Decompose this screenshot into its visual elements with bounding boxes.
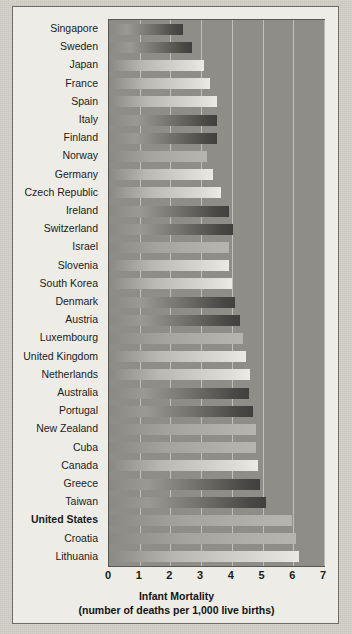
gridline-7: [324, 20, 325, 566]
bar-germany: [109, 169, 213, 180]
x-tick-label-6: 6: [289, 569, 295, 581]
bar-cuba: [109, 442, 256, 453]
bar-row: [109, 38, 324, 56]
bar-south-korea: [109, 278, 232, 289]
bar-austria: [109, 315, 240, 326]
bar-row: [109, 93, 324, 111]
category-label-austria: Austria: [65, 310, 98, 328]
bar-netherlands: [109, 369, 250, 380]
bar-row: [109, 329, 324, 347]
bar-row: [109, 402, 324, 420]
category-label-denmark: Denmark: [55, 292, 98, 310]
bar-row: [109, 275, 324, 293]
category-label-south-korea: South Korea: [40, 274, 98, 292]
bar-greece: [109, 479, 260, 490]
bar-row: [109, 129, 324, 147]
bar-taiwan: [109, 497, 266, 508]
category-label-new-zealand: New Zealand: [36, 419, 98, 437]
category-label-cuba: Cuba: [73, 438, 98, 456]
category-label-ireland: Ireland: [66, 201, 98, 219]
bar-row: [109, 366, 324, 384]
bar-row: [109, 439, 324, 457]
bar-croatia: [109, 533, 296, 544]
bar-row: [109, 530, 324, 548]
x-tick-label-0: 0: [105, 569, 111, 581]
bar-singapore: [109, 24, 183, 35]
category-label-czech-republic: Czech Republic: [24, 183, 98, 201]
bar-row: [109, 202, 324, 220]
plot-area: [108, 19, 325, 567]
axis-title-main: Infant Mortality: [13, 589, 340, 603]
bar-row: [109, 475, 324, 493]
bar-row: [109, 348, 324, 366]
bar-row: [109, 166, 324, 184]
category-label-japan: Japan: [69, 55, 98, 73]
page-background: SingaporeSwedenJapanFranceSpainItalyFinl…: [0, 0, 352, 634]
category-label-luxembourg: Luxembourg: [40, 328, 98, 346]
category-label-slovenia: Slovenia: [58, 256, 98, 274]
bar-row: [109, 384, 324, 402]
value-axis-ticks: 01234567: [108, 569, 323, 585]
bar-denmark: [109, 297, 235, 308]
bar-row: [109, 493, 324, 511]
category-label-australia: Australia: [57, 383, 98, 401]
category-label-spain: Spain: [71, 92, 98, 110]
x-tick-label-7: 7: [320, 569, 326, 581]
bar-new-zealand: [109, 424, 256, 435]
x-tick-label-3: 3: [197, 569, 203, 581]
bar-row: [109, 548, 324, 566]
bar-switzerland: [109, 224, 233, 235]
bar-spain: [109, 96, 217, 107]
bar-portugal: [109, 406, 253, 417]
category-label-united-kingdom: United Kingdom: [23, 347, 98, 365]
category-label-lithuania: Lithuania: [55, 547, 98, 565]
category-label-switzerland: Switzerland: [44, 219, 98, 237]
bar-row: [109, 420, 324, 438]
bar-row: [109, 75, 324, 93]
category-label-canada: Canada: [61, 456, 98, 474]
bar-ireland: [109, 206, 229, 217]
bar-row: [109, 257, 324, 275]
category-label-singapore: Singapore: [50, 19, 98, 37]
category-label-italy: Italy: [79, 110, 98, 128]
category-label-portugal: Portugal: [59, 401, 98, 419]
category-axis-labels: SingaporeSwedenJapanFranceSpainItalyFinl…: [13, 19, 104, 565]
category-label-croatia: Croatia: [64, 529, 98, 547]
category-label-finland: Finland: [64, 128, 98, 146]
category-label-sweden: Sweden: [60, 37, 98, 55]
x-tick-label-4: 4: [228, 569, 234, 581]
category-label-greece: Greece: [64, 474, 98, 492]
bar-row: [109, 20, 324, 38]
x-tick-label-5: 5: [259, 569, 265, 581]
category-label-united-states: United States: [31, 510, 98, 528]
bar-series: [109, 20, 324, 566]
bar-row: [109, 56, 324, 74]
bar-united-states: [109, 515, 292, 526]
bar-row: [109, 184, 324, 202]
bar-italy: [109, 115, 217, 126]
bar-united-kingdom: [109, 351, 246, 362]
x-tick-label-2: 2: [166, 569, 172, 581]
category-label-israel: Israel: [72, 237, 98, 255]
figure-panel: SingaporeSwedenJapanFranceSpainItalyFinl…: [12, 6, 339, 624]
bar-row: [109, 147, 324, 165]
category-label-germany: Germany: [55, 165, 98, 183]
bar-australia: [109, 388, 249, 399]
bar-sweden: [109, 42, 192, 53]
bar-japan: [109, 60, 204, 71]
axis-title-sub: (number of deaths per 1,000 live births): [13, 603, 340, 617]
bar-row: [109, 311, 324, 329]
bar-row: [109, 511, 324, 529]
bar-row: [109, 111, 324, 129]
bar-row: [109, 238, 324, 256]
bar-row: [109, 293, 324, 311]
category-label-netherlands: Netherlands: [41, 365, 98, 383]
bar-row: [109, 220, 324, 238]
bar-chart: SingaporeSwedenJapanFranceSpainItalyFinl…: [13, 7, 340, 625]
category-label-france: France: [65, 74, 98, 92]
bar-lithuania: [109, 551, 299, 562]
bar-luxembourg: [109, 333, 243, 344]
bar-row: [109, 457, 324, 475]
category-label-norway: Norway: [62, 146, 98, 164]
bar-canada: [109, 460, 258, 471]
